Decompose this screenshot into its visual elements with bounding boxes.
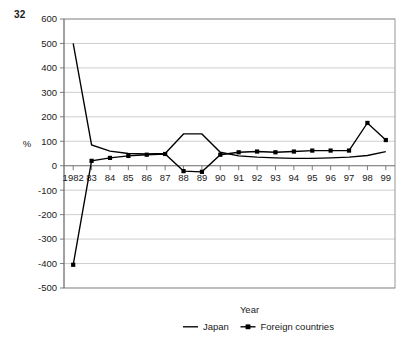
legend-label-0: Japan [203,321,229,332]
x-axis-title: Year [240,304,259,315]
x-tick-label: 87 [160,172,171,183]
y-tick-label: -500 [38,282,57,293]
y-tick-label: 100 [41,136,57,147]
data-point-marker [237,150,241,154]
y-tick-label: 300 [41,87,57,98]
x-tick-label: 84 [105,172,116,183]
y-tick-label: 0 [52,160,57,171]
x-tick-label: 90 [215,172,226,183]
legend-marker-1 [246,324,251,329]
data-point-marker [71,263,75,267]
y-tick-label: -300 [38,233,57,244]
chart-svg: 6005004003002001000-100-200-300-400-5001… [0,0,414,343]
y-tick-label: 400 [41,62,57,73]
y-tick-label: -100 [38,185,57,196]
x-tick-label: 96 [325,172,336,183]
data-point-marker [181,169,185,173]
data-point-marker [365,121,369,125]
data-point-marker [126,154,130,158]
x-tick-label: 86 [141,172,152,183]
data-point-marker [200,170,204,174]
data-point-marker [255,149,259,153]
data-point-marker [384,138,388,142]
x-tick-label: 99 [381,172,392,183]
legend-label-1: Foreign countries [261,321,335,332]
data-point-marker [329,148,333,152]
y-tick-label: -400 [38,258,57,269]
x-tick-label: 95 [307,172,318,183]
data-point-marker [310,148,314,152]
data-point-marker [163,152,167,156]
data-point-marker [273,150,277,154]
series-line-foreign-countries [73,123,386,265]
y-tick-label: 600 [41,13,57,24]
x-tick-label: 93 [270,172,281,183]
y-tick-label: 500 [41,38,57,49]
x-tick-label: 91 [233,172,244,183]
data-point-marker [347,148,351,152]
line-chart: 6005004003002001000-100-200-300-400-5001… [0,0,414,343]
x-tick-label: 1982 [63,172,84,183]
data-point-marker [292,149,296,153]
y-tick-label: -200 [38,209,57,220]
x-tick-label: 88 [178,172,189,183]
y-tick-label: 200 [41,111,57,122]
data-point-marker [108,156,112,160]
x-tick-label: 97 [344,172,355,183]
x-tick-label: 92 [252,172,263,183]
data-point-marker [145,153,149,157]
data-point-marker [89,159,93,163]
x-tick-label: 98 [362,172,373,183]
data-point-marker [218,153,222,157]
x-tick-label: 94 [289,172,300,183]
y-axis-title: % [23,138,32,149]
x-tick-label: 85 [123,172,134,183]
